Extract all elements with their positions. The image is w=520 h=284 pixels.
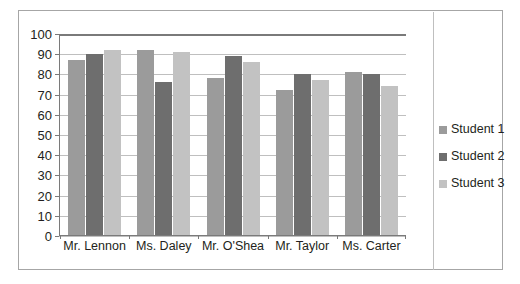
bars-layer: [60, 34, 406, 235]
legend-item-label: Student 3: [451, 177, 505, 190]
y-axis-tick-label: 30: [38, 169, 52, 182]
bar-group: [129, 34, 198, 235]
y-axis-tick-label: 10: [38, 209, 52, 222]
y-axis-tick-mark: [55, 115, 59, 116]
x-axis-category-label: Mr. O'Shea: [198, 240, 267, 254]
bar[interactable]: [155, 82, 172, 235]
bar[interactable]: [312, 80, 329, 235]
legend-swatch-icon: [439, 126, 447, 134]
x-axis-tick-mark: [60, 235, 61, 239]
bar[interactable]: [86, 54, 103, 235]
bar[interactable]: [294, 74, 311, 235]
x-axis-category-label: Mr. Lennon: [60, 240, 129, 254]
x-axis-tick-mark: [129, 235, 130, 239]
x-axis-category-label: Ms. Daley: [129, 240, 198, 254]
y-axis-tick-mark: [55, 34, 59, 35]
chart-frame: 1009080706050403020100 Mr. LennonMs. Dal…: [18, 10, 503, 270]
y-axis-tick-label: 90: [38, 48, 52, 61]
plot-area: 1009080706050403020100: [59, 34, 406, 236]
y-axis-tick-label: 40: [38, 149, 52, 162]
legend-swatch-icon: [439, 180, 447, 188]
x-axis-tick-mark: [198, 235, 199, 239]
x-axis-tick-mark: [337, 235, 338, 239]
bar-group: [60, 34, 129, 235]
bar-group: [268, 34, 337, 235]
bar[interactable]: [104, 50, 121, 235]
legend-divider: [433, 12, 434, 270]
legend-item[interactable]: Student 1: [439, 116, 501, 143]
legend-item[interactable]: Student 3: [439, 170, 501, 197]
y-axis-tick-mark: [55, 196, 59, 197]
y-axis-tick-mark: [55, 74, 59, 75]
x-axis-category-label: Mr. Taylor: [268, 240, 337, 254]
y-axis-tick-mark: [55, 95, 59, 96]
y-axis-tick-label: 0: [45, 230, 52, 243]
y-axis-tick-mark: [55, 175, 59, 176]
x-axis-category-label: Ms. Carter: [337, 240, 406, 254]
bar[interactable]: [225, 56, 242, 235]
x-axis-line: [59, 235, 406, 236]
legend-item-label: Student 2: [451, 150, 505, 163]
y-axis-tick-label: 60: [38, 108, 52, 121]
chart-legend: Student 1Student 2Student 3: [439, 116, 501, 197]
bar-group: [337, 34, 406, 235]
y-axis-tick-mark: [55, 54, 59, 55]
gridline: [59, 236, 406, 237]
bar[interactable]: [381, 86, 398, 235]
bar[interactable]: [137, 50, 154, 235]
y-axis-tick-mark: [55, 216, 59, 217]
y-axis-tick-mark: [55, 135, 59, 136]
legend-item-label: Student 1: [451, 123, 505, 136]
bar-group: [198, 34, 267, 235]
bar[interactable]: [276, 90, 293, 235]
x-axis-tick-mark: [268, 235, 269, 239]
x-axis-tick-mark: [405, 235, 406, 239]
y-axis-tick-label: 80: [38, 68, 52, 81]
legend-swatch-icon: [439, 153, 447, 161]
bar[interactable]: [363, 74, 380, 235]
y-axis-tick-label: 100: [30, 28, 52, 41]
bar[interactable]: [345, 72, 362, 235]
bar[interactable]: [173, 52, 190, 235]
x-axis-category-labels: Mr. LennonMs. DaleyMr. O'SheaMr. TaylorM…: [60, 240, 406, 254]
legend-item[interactable]: Student 2: [439, 143, 501, 170]
y-axis-tick-mark: [55, 155, 59, 156]
y-axis-tick-label: 70: [38, 88, 52, 101]
bar[interactable]: [68, 60, 85, 235]
y-axis-tick-mark: [55, 236, 59, 237]
y-axis-tick-label: 50: [38, 129, 52, 142]
bar[interactable]: [243, 62, 260, 235]
bar[interactable]: [207, 78, 224, 235]
y-axis-tick-label: 20: [38, 189, 52, 202]
